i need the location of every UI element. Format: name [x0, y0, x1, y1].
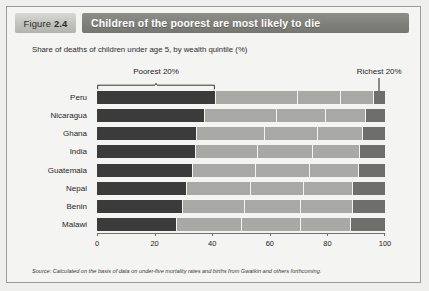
bar-segment-q4 [340, 91, 373, 104]
figure-number-badge: Figure 2.4 [15, 13, 76, 33]
poorest-annotation-label: Poorest 20% [133, 67, 179, 76]
bar-row [97, 218, 385, 231]
bar-segment-q4 [309, 164, 358, 177]
bar-segment-q1 [97, 164, 192, 177]
bar-segment-q4 [312, 145, 360, 158]
axis-tick [270, 233, 271, 236]
bar-segment-q5 [373, 91, 385, 104]
bar-segment-q5 [365, 109, 385, 122]
bar-segment-q3 [244, 200, 300, 213]
bar-segment-q2 [195, 145, 257, 158]
axis-tick [97, 233, 98, 236]
bar-segment-q2 [182, 200, 244, 213]
category-label-nicaragua: Nicaragua [51, 109, 87, 122]
chart-plot-area [97, 91, 385, 231]
axis-tick-label: 80 [323, 239, 331, 248]
bar-segment-q2 [215, 91, 297, 104]
figure-number-value: 2.4 [54, 18, 68, 29]
bar-segment-q4 [300, 200, 352, 213]
axis-tick-label: 100 [379, 239, 392, 248]
category-label-peru: Peru [70, 91, 87, 104]
bar-segment-q5 [352, 200, 385, 213]
axis-tick [384, 233, 385, 236]
bar-segment-q3 [264, 127, 317, 140]
bar-row [97, 91, 385, 104]
chart-subtitle: Share of deaths of children under age 5,… [32, 45, 247, 54]
category-label-malawi: Malawi [62, 218, 87, 231]
category-label-guatemala: Guatemala [48, 164, 87, 177]
bar-segment-q2 [186, 182, 249, 195]
figure-header: Figure 2.4 Children of the poorest are m… [15, 13, 409, 33]
figure-number-text: Figure 2.4 [24, 18, 68, 29]
axis-tick [155, 233, 156, 236]
richest-annotation: Richest 20% [373, 67, 385, 93]
bar-segment-q3 [241, 218, 300, 231]
figure-title-bar: Children of the poorest are most likely … [82, 13, 409, 33]
bar-segment-q2 [192, 164, 255, 177]
axis-tick [327, 233, 328, 236]
bar-row [97, 182, 385, 195]
bar-segment-q5 [362, 127, 385, 140]
category-label-nepal: Nepal [66, 182, 87, 195]
axis-line [97, 233, 385, 234]
bar-segment-q4 [317, 127, 362, 140]
bar-segment-q2 [176, 218, 241, 231]
bar-segment-q5 [359, 145, 385, 158]
bar-segment-q1 [97, 200, 182, 213]
bar-segment-q1 [97, 182, 186, 195]
bar-segment-q5 [358, 164, 385, 177]
bar-row [97, 109, 385, 122]
category-axis-labels: PeruNicaraguaGhanaIndiaGuatemalaNepalBen… [7, 91, 92, 231]
bar-segment-q4 [300, 218, 350, 231]
richest-annotation-label: Richest 20% [357, 67, 402, 76]
bar-row [97, 145, 385, 158]
bar-segment-q2 [204, 109, 276, 122]
value-axis: 020406080100 [97, 233, 385, 255]
bar-segment-q3 [297, 91, 340, 104]
bar-row [97, 164, 385, 177]
bar-segment-q1 [97, 109, 204, 122]
poorest-bracket-icon [97, 83, 215, 90]
bar-segment-q3 [276, 109, 325, 122]
bar-row [97, 200, 385, 213]
axis-tick [212, 233, 213, 236]
bar-segment-q1 [97, 91, 215, 104]
bar-segment-q4 [303, 182, 352, 195]
figure-number-prefix: Figure [24, 18, 52, 29]
bar-segment-q3 [250, 182, 303, 195]
figure-card: Figure 2.4 Children of the poorest are m… [6, 6, 421, 283]
axis-tick-label: 0 [95, 239, 99, 248]
bar-segment-q1 [97, 145, 195, 158]
axis-tick-label: 20 [150, 239, 158, 248]
bar-segment-q3 [257, 145, 312, 158]
category-label-ghana: Ghana [63, 127, 87, 140]
source-note: Source: Calculated on the basis of data … [32, 268, 321, 274]
category-label-india: India [70, 145, 87, 158]
page-title: Children of the poorest are most likely … [82, 17, 320, 29]
axis-tick-label: 60 [266, 239, 274, 248]
axis-tick-label: 40 [208, 239, 216, 248]
bar-segment-q1 [97, 127, 196, 140]
bar-segment-q1 [97, 218, 176, 231]
bar-row [97, 127, 385, 140]
bar-segment-q2 [196, 127, 264, 140]
bar-segment-q3 [255, 164, 308, 177]
bar-segment-q5 [350, 218, 385, 231]
bar-segment-q4 [325, 109, 365, 122]
bar-segment-q5 [352, 182, 385, 195]
category-label-benin: Benin [67, 200, 87, 213]
poorest-annotation: Poorest 20% [97, 67, 215, 91]
